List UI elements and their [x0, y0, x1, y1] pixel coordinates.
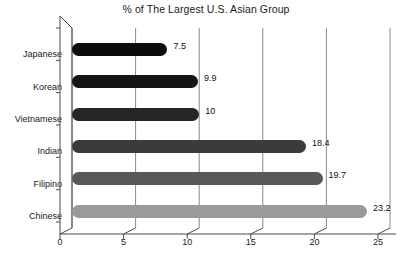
bar-indian[interactable]	[72, 140, 306, 153]
x-axis-label-20: 20	[309, 237, 319, 247]
bar-row: 10	[72, 99, 390, 131]
bar-vietnamese[interactable]	[72, 108, 199, 121]
bar-row: 19.7	[72, 163, 390, 195]
x-axis-tick-labels: 0510152025	[0, 234, 412, 250]
y-axis-label-korean: Korean	[0, 82, 62, 92]
x-axis-label-15: 15	[246, 237, 256, 247]
bar-value-label: 7.5	[173, 41, 186, 51]
bar-value-label: 18.4	[312, 138, 330, 148]
x-axis-label-10: 10	[182, 237, 192, 247]
bar-value-label: 19.7	[329, 170, 347, 180]
bar-japanese[interactable]	[72, 43, 167, 56]
chart-title: % of The Largest U.S. Asian Group	[0, 3, 412, 15]
y-axis-label-vietnamese: Vietnamese	[0, 114, 62, 124]
x-axis-label-5: 5	[121, 237, 126, 247]
bar-chart: % of The Largest U.S. Asian Group Japane…	[0, 0, 412, 254]
bar-row: 9.9	[72, 66, 390, 98]
plot-area: 7.59.91018.419.723.2	[72, 34, 390, 228]
y-axis-label-japanese: Japanese	[0, 49, 62, 59]
bar-chinese[interactable]	[72, 205, 367, 218]
bar-filipino[interactable]	[72, 172, 323, 185]
bar-row: 23.2	[72, 196, 390, 228]
y-axis-label-indian: Indian	[0, 146, 62, 156]
y-axis-label-filipino: Filipino	[0, 179, 62, 189]
bar-value-label: 23.2	[373, 203, 391, 213]
bar-row: 18.4	[72, 131, 390, 163]
y-axis-category-labels: JapaneseKoreanVietnameseIndianFilipinoCh…	[0, 34, 66, 228]
bar-row: 7.5	[72, 34, 390, 66]
bar-value-label: 10	[205, 106, 215, 116]
bar-value-label: 9.9	[204, 73, 217, 83]
y-axis-label-chinese: Chinese	[0, 211, 62, 221]
x-axis-label-0: 0	[57, 237, 62, 247]
x-axis-label-25: 25	[373, 237, 383, 247]
bar-korean[interactable]	[72, 75, 198, 88]
